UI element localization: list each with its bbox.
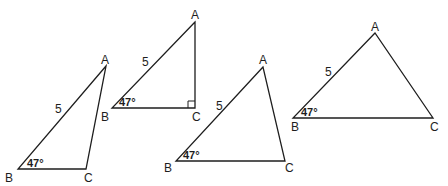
triangle-2: A B C 5 47° <box>101 8 201 124</box>
angle-b-label: 47° <box>119 96 136 108</box>
triangle-1: A B C 5 47° <box>5 53 109 185</box>
vertex-c-label: C <box>430 120 439 134</box>
vertex-a-label: A <box>101 53 109 67</box>
vertex-b-label: B <box>5 171 13 185</box>
triangle-3: A B C 5 47° <box>164 53 294 175</box>
angle-b-label: 47° <box>183 149 200 161</box>
vertex-b-label: B <box>101 110 109 124</box>
vertex-b-label: B <box>291 120 299 134</box>
triangle-diagram: A B C 5 47° A B C 5 47° A B C 5 47° <box>0 0 448 186</box>
side-ab-label: 5 <box>325 65 332 79</box>
angle-b-label: 47° <box>301 106 318 118</box>
vertex-b-label: B <box>164 161 172 175</box>
triangle-1-outline <box>18 66 106 169</box>
side-ab-label: 5 <box>142 55 149 69</box>
right-angle-marker <box>188 101 195 108</box>
diagram-svg: A B C 5 47° A B C 5 47° A B C 5 47° <box>0 0 448 186</box>
vertex-a-label: A <box>259 53 267 67</box>
angle-b-label: 47° <box>27 157 44 169</box>
vertex-c-label: C <box>84 171 93 185</box>
vertex-a-label: A <box>371 20 379 34</box>
triangle-4: A B C 5 47° <box>291 20 439 134</box>
side-ab-label: 5 <box>216 99 223 113</box>
vertex-c-label: C <box>285 161 294 175</box>
side-ab-label: 5 <box>55 102 62 116</box>
vertex-a-label: A <box>191 8 199 22</box>
vertex-c-label: C <box>192 110 201 124</box>
